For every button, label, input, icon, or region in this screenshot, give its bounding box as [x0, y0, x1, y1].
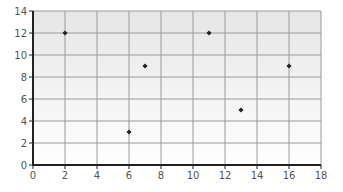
y-tick-label: 0 [21, 160, 27, 171]
x-tick-label: 18 [315, 170, 328, 181]
y-tick-label: 6 [21, 94, 27, 105]
x-tick-label: 12 [219, 170, 232, 181]
y-tick-label: 2 [21, 138, 27, 149]
y-tick-labels: 02468101214 [14, 6, 27, 171]
plot-area [33, 11, 321, 165]
x-tick-label: 2 [62, 170, 68, 181]
y-tick-label: 4 [21, 116, 27, 127]
x-tick-label: 6 [126, 170, 132, 181]
x-tick-label: 8 [158, 170, 164, 181]
x-tick-label: 4 [94, 170, 100, 181]
y-tick-label: 12 [14, 28, 27, 39]
x-tick-label: 10 [187, 170, 200, 181]
x-tick-labels: 024681012141618 [30, 170, 328, 181]
x-tick-label: 14 [251, 170, 264, 181]
scatter-chart: 024681012141618 02468101214 [0, 0, 343, 192]
y-tick-label: 8 [21, 72, 27, 83]
x-tick-label: 16 [283, 170, 296, 181]
y-tick-label: 14 [14, 6, 27, 17]
y-tick-label: 10 [14, 50, 27, 61]
x-tick-label: 0 [30, 170, 36, 181]
